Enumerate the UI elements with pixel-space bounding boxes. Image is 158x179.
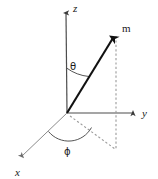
projection-ground-dashed-line [70,116,115,149]
vector-m-line [67,38,113,113]
axis-y-label: y [141,107,147,119]
phi-label: ϕ [64,146,71,157]
vector-m-label: m [122,22,131,34]
magnetic-moment-vector: m [67,22,131,113]
axis-x-label: x [14,166,20,178]
axis-x-line [22,113,67,156]
axis-x: x [14,113,67,178]
spherical-coordinate-diagram: z y x m θ ϕ [0,0,158,179]
axis-y: y [67,107,147,119]
phi-arc [49,128,92,142]
axis-z-label: z [72,2,78,14]
axis-z-line [66,13,67,113]
theta-label: θ [70,61,76,72]
diagram-canvas: z y x m θ ϕ [0,0,158,179]
